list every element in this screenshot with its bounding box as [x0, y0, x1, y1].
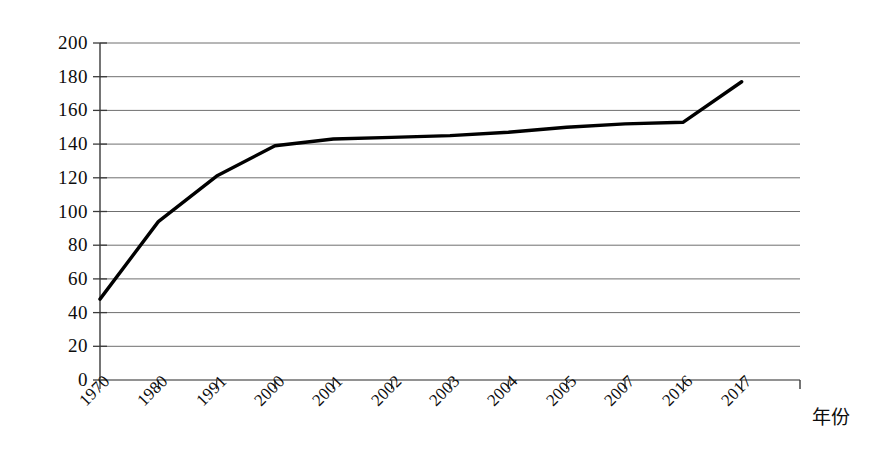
y-tick-label: 80 — [20, 235, 88, 254]
y-tick-label: 20 — [20, 336, 88, 355]
y-tick-label: 160 — [20, 100, 88, 119]
y-tick-label: 0 — [20, 370, 88, 389]
x-axis-ticks — [100, 380, 742, 389]
y-tick-label: 60 — [20, 269, 88, 288]
x-axis-title: 年份 — [812, 408, 850, 427]
y-tick-label: 120 — [20, 168, 88, 187]
y-tick-label: 100 — [20, 202, 88, 221]
y-tick-label: 200 — [20, 33, 88, 52]
y-tick-label: 40 — [20, 303, 88, 322]
data-series-line — [100, 82, 742, 299]
line-chart: 020406080100120140160180200 197019801991… — [0, 0, 878, 458]
gridlines — [93, 43, 800, 380]
y-tick-label: 140 — [20, 134, 88, 153]
y-tick-label: 180 — [20, 67, 88, 86]
